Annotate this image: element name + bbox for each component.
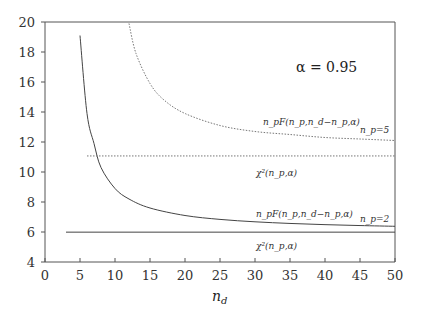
svg-text:20: 20 — [18, 15, 35, 30]
svg-text:50: 50 — [387, 268, 404, 283]
svg-text:5: 5 — [76, 268, 84, 283]
svg-text:15: 15 — [142, 268, 159, 283]
svg-text:16: 16 — [18, 75, 35, 90]
svg-text:4: 4 — [27, 255, 35, 270]
svg-text:0: 0 — [41, 268, 49, 283]
alpha-annotation: α = 0.95 — [296, 59, 357, 75]
f-label-np2: n_pF(n_p,n_d−n_p,α) — [256, 209, 353, 220]
svg-text:18: 18 — [18, 45, 35, 60]
np2-label: n_p=2 — [360, 214, 390, 225]
svg-text:6: 6 — [27, 225, 35, 240]
svg-text:35: 35 — [282, 268, 299, 283]
svg-text:14: 14 — [18, 105, 35, 120]
svg-text:10: 10 — [18, 165, 35, 180]
svg-text:8: 8 — [27, 195, 35, 210]
axis-ticks: 05101520253035404550468101214161820 — [18, 15, 403, 283]
svg-text:30: 30 — [247, 268, 264, 283]
chart: 05101520253035404550468101214161820 α = … — [0, 0, 421, 321]
chi-label-np2: χ²(n_p,α) — [255, 241, 298, 252]
np5-label: n_p=5 — [360, 125, 390, 136]
svg-text:40: 40 — [317, 268, 334, 283]
svg-text:12: 12 — [18, 135, 35, 150]
x-axis-label: nd — [212, 288, 227, 306]
chi-label-np5: χ²(n_p,α) — [255, 168, 298, 179]
svg-text:25: 25 — [212, 268, 229, 283]
f-label-np5: n_pF(n_p,n_d−n_p,α) — [263, 117, 360, 128]
plot-frame — [45, 22, 395, 262]
data-curves — [66, 24, 395, 233]
svg-text:45: 45 — [352, 268, 369, 283]
svg-text:10: 10 — [107, 268, 124, 283]
svg-text:20: 20 — [177, 268, 194, 283]
